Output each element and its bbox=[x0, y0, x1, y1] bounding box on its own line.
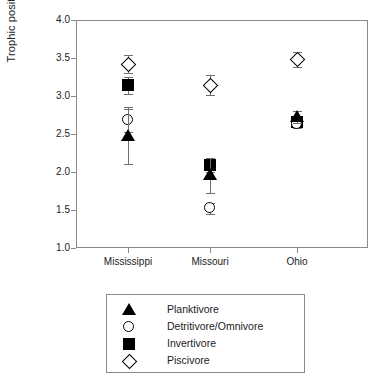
error-bar-cap-bottom bbox=[206, 214, 215, 215]
trophic-position-figure: Trophic position 1.01.52.02.53.03.54.0 M… bbox=[0, 0, 389, 381]
filled-square-marker bbox=[122, 79, 134, 91]
y-axis-title: Trophic position bbox=[5, 0, 23, 88]
x-tick-mark bbox=[297, 248, 298, 253]
open-circle-marker bbox=[204, 202, 215, 213]
legend-item: Detritivore/Omnivore bbox=[107, 318, 306, 336]
open-diamond-marker-legend bbox=[121, 353, 137, 369]
y-tick-label: 1.5 bbox=[40, 204, 70, 215]
legend-label: Invertivore bbox=[167, 337, 216, 349]
filled-triangle-marker-legend bbox=[122, 303, 136, 315]
x-tick-mark bbox=[128, 248, 129, 253]
legend: PlanktivoreDetritivore/OmnivoreInvertivo… bbox=[106, 294, 305, 373]
legend-item: Planktivore bbox=[107, 301, 306, 319]
y-tick-label: 2.5 bbox=[40, 128, 70, 139]
y-tick-label: 4.0 bbox=[40, 14, 70, 25]
filled-triangle-marker bbox=[290, 110, 304, 122]
x-tick-label-mississippi: Mississippi bbox=[83, 256, 173, 267]
legend-label: Planktivore bbox=[167, 303, 219, 315]
error-bar-cap-bottom bbox=[124, 73, 133, 74]
filled-square-marker-legend bbox=[123, 338, 135, 350]
y-tick-label: 3.0 bbox=[40, 90, 70, 101]
filled-triangle-marker bbox=[121, 129, 135, 141]
legend-item: Piscivore bbox=[107, 352, 306, 370]
error-bar-cap-top bbox=[124, 107, 133, 108]
y-tick-mark bbox=[71, 248, 76, 249]
error-bar-cap-bottom bbox=[293, 123, 302, 124]
y-tick-label: 2.0 bbox=[40, 166, 70, 177]
y-tick-label: 3.5 bbox=[40, 52, 70, 63]
error-bar-cap-bottom bbox=[124, 94, 133, 95]
error-bar-cap-bottom bbox=[206, 193, 215, 194]
x-tick-label-ohio: Ohio bbox=[252, 256, 342, 267]
open-circle-marker-legend bbox=[123, 321, 134, 332]
x-tick-mark bbox=[210, 248, 211, 253]
error-bar-cap-top bbox=[206, 158, 215, 159]
x-tick-label-missouri: Missouri bbox=[165, 256, 255, 267]
error-bar-cap-bottom bbox=[124, 164, 133, 165]
legend-item: Invertivore bbox=[107, 335, 306, 353]
plot-area bbox=[76, 20, 368, 248]
y-tick-label: 1.0 bbox=[40, 242, 70, 253]
error-bar-cap-bottom bbox=[206, 95, 215, 96]
legend-label: Detritivore/Omnivore bbox=[167, 320, 263, 332]
filled-triangle-marker bbox=[203, 168, 217, 180]
legend-label: Piscivore bbox=[167, 354, 210, 366]
error-bar-cap-top bbox=[124, 77, 133, 78]
